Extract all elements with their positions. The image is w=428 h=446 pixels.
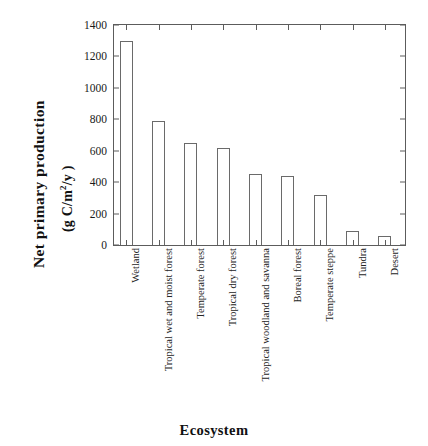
x-axis-tick-labels: WetlandTropical wet and moist forestTemp… — [113, 248, 406, 408]
x-axis-tick-label: Boreal forest — [292, 248, 303, 303]
y-axis-tick-mark — [114, 213, 119, 214]
x-axis-tick-mark — [159, 240, 160, 245]
y-axis-tick-mark — [114, 119, 119, 120]
x-axis-tick-mark — [126, 240, 127, 245]
bar — [281, 176, 294, 245]
x-axis-tick-mark-top — [159, 25, 160, 30]
bar — [152, 121, 165, 245]
x-axis-tick-mark — [320, 240, 321, 245]
x-axis-tick-mark-top — [288, 25, 289, 30]
x-axis-tick-mark-top — [191, 25, 192, 30]
x-axis-tick-mark — [288, 240, 289, 245]
y-axis-tick-mark-right — [400, 56, 405, 57]
x-axis-tick-mark — [223, 240, 224, 245]
y-axis-tick-mark-right — [400, 119, 405, 120]
y-axis-tick-label: 600 — [90, 145, 114, 157]
x-axis-tick-mark-top — [385, 25, 386, 30]
x-axis-tick-label: Temperate steppe — [324, 248, 335, 322]
x-axis-tick-label: Tropical wet and moist forest — [163, 248, 174, 371]
y-axis-tick-mark-right — [400, 150, 405, 151]
x-axis-tick-mark-top — [320, 25, 321, 30]
y-axis-tick-mark — [114, 25, 119, 26]
x-axis-tick-mark-top — [256, 25, 257, 30]
x-axis-title: Ecosystem — [0, 422, 428, 439]
x-axis-tick-label: Tropical dry forest — [227, 248, 238, 326]
plot-inner: 0200400600800100012001400 — [114, 25, 405, 245]
x-axis-tick-mark-top — [353, 25, 354, 30]
plot-area: 0200400600800100012001400 — [113, 24, 406, 246]
x-axis-tick-label: Tropical woodland and savanna — [260, 248, 271, 381]
y-units-exponent: 2 — [58, 185, 68, 190]
y-axis-title-main: Net primary production — [30, 100, 48, 268]
bar — [249, 174, 262, 245]
x-axis-tick-label: Desert — [389, 248, 400, 275]
x-axis-tick-label: Tundra — [357, 248, 368, 278]
bar — [217, 148, 230, 245]
bar — [120, 41, 133, 245]
x-axis-tick-mark — [191, 240, 192, 245]
y-axis-tick-mark-right — [400, 25, 405, 26]
y-axis-tick-label: 400 — [90, 176, 114, 188]
x-axis-tick-mark — [385, 240, 386, 245]
y-axis-tick-label: 1200 — [84, 50, 114, 62]
y-axis-tick-label: 1000 — [84, 82, 114, 94]
y-units-suffix: /y ) — [60, 165, 75, 185]
y-axis-tick-mark-right — [400, 245, 405, 246]
x-axis-tick-mark-top — [126, 25, 127, 30]
y-axis-tick-mark — [114, 245, 119, 246]
y-axis-title-units: (g C/m2/y ) — [58, 165, 76, 232]
y-axis-tick-label: 200 — [90, 208, 114, 220]
bar — [314, 195, 327, 245]
y-axis-tick-mark — [114, 150, 119, 151]
y-axis-tick-mark — [114, 87, 119, 88]
x-axis-tick-mark-top — [223, 25, 224, 30]
y-axis-tick-mark-right — [400, 213, 405, 214]
x-axis-tick-label: Wetland — [130, 248, 141, 283]
y-axis-tick-mark — [114, 56, 119, 57]
y-axis-tick-label: 800 — [90, 113, 114, 125]
chart-figure: Net primary production (g C/m2/y ) 02004… — [0, 0, 428, 446]
x-axis-tick-label: Temperate forest — [195, 248, 206, 319]
y-axis-tick-mark-right — [400, 87, 405, 88]
y-axis-tick-label: 1400 — [84, 19, 114, 31]
y-axis-tick-mark — [114, 182, 119, 183]
y-units-prefix: (g C/m — [60, 190, 75, 232]
x-axis-tick-mark — [256, 240, 257, 245]
x-axis-tick-mark — [353, 240, 354, 245]
bar — [184, 143, 197, 245]
y-axis-title: Net primary production (g C/m2/y ) — [0, 0, 96, 300]
y-axis-tick-mark-right — [400, 182, 405, 183]
